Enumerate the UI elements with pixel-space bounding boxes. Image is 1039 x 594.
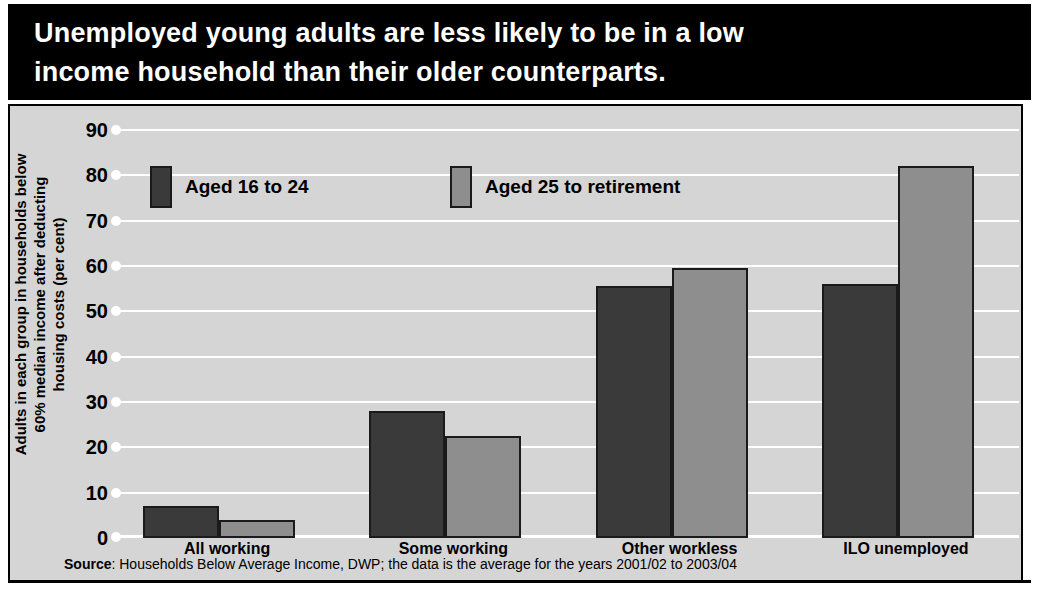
y-axis-tick-label: 0 bbox=[62, 528, 108, 548]
source-note: Source: Households Below Average Income,… bbox=[8, 556, 1023, 572]
bar-young bbox=[369, 411, 445, 538]
bar-older bbox=[672, 268, 748, 538]
source-text: : Households Below Average Income, DWP; … bbox=[111, 556, 736, 572]
gridline-marker-dot bbox=[111, 125, 121, 135]
y-axis-tick-label: 30 bbox=[62, 392, 108, 412]
gridline-marker-dot bbox=[111, 442, 121, 452]
y-axis-tick-label: 60 bbox=[62, 256, 108, 276]
bar-older bbox=[898, 166, 974, 538]
legend-label: Aged 16 to 24 bbox=[185, 176, 309, 198]
gridline-marker-dot bbox=[111, 216, 121, 226]
legend-swatch-young bbox=[150, 166, 172, 208]
legend-entry: Aged 25 to retirement bbox=[450, 164, 680, 210]
chart-figure: Unemployed young adults are less likely … bbox=[0, 0, 1039, 594]
legend-swatch-older bbox=[450, 166, 472, 208]
y-axis-title-line-1: Adults in each group in households below bbox=[11, 135, 30, 475]
y-axis-tick-label: 50 bbox=[62, 301, 108, 321]
gridline-marker-dot bbox=[111, 397, 121, 407]
gridline-marker-dot bbox=[111, 261, 121, 271]
legend-entry: Aged 16 to 24 bbox=[150, 164, 309, 210]
bar-young bbox=[596, 286, 672, 538]
gridline bbox=[114, 265, 1019, 267]
bar-young bbox=[822, 284, 898, 538]
title-line-2: income household than their older counte… bbox=[34, 53, 1005, 92]
y-axis-tick-labels: 0102030405060708090 bbox=[56, 130, 108, 538]
chart-panel: Adults in each group in households below… bbox=[8, 104, 1023, 582]
gridline-marker-dot bbox=[111, 352, 121, 362]
y-axis-tick-label: 40 bbox=[62, 347, 108, 367]
y-axis-title-line-2: 60% median income after deducting bbox=[30, 135, 49, 475]
legend-label: Aged 25 to retirement bbox=[485, 176, 680, 198]
gridline-marker-dot bbox=[111, 488, 121, 498]
title-line-1: Unemployed young adults are less likely … bbox=[34, 14, 1005, 53]
gridline bbox=[114, 220, 1019, 222]
bottom-rule bbox=[8, 580, 1031, 583]
y-axis-tick-label: 20 bbox=[62, 437, 108, 457]
gridline bbox=[114, 129, 1019, 131]
bar-older bbox=[219, 520, 295, 538]
bar-older bbox=[445, 436, 521, 538]
source-label: Source bbox=[64, 556, 111, 572]
y-axis-tick-label: 70 bbox=[62, 211, 108, 231]
gridline-marker-dot bbox=[111, 306, 121, 316]
y-axis-tick-label: 80 bbox=[62, 165, 108, 185]
gridline-marker-dot bbox=[111, 170, 121, 180]
y-axis-tick-label: 90 bbox=[62, 120, 108, 140]
title-banner: Unemployed young adults are less likely … bbox=[8, 4, 1031, 100]
bar-young bbox=[143, 506, 219, 538]
y-axis-tick-label: 10 bbox=[62, 483, 108, 503]
